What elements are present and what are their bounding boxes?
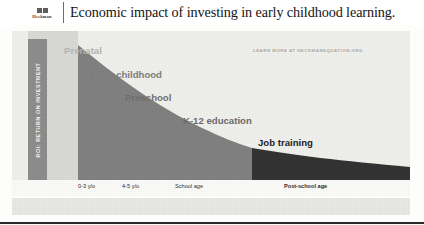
bottom-rule (0, 222, 424, 224)
axis-label-school-age: School age (175, 183, 203, 189)
curve-label-prenatal: Prenatal (64, 45, 102, 56)
chart-plot-area: Prenatal Early childhood Preschool K-12 … (12, 31, 410, 180)
footer-band (12, 198, 410, 215)
chart-axis-strip: 0-3 y/o 4-5 y/o School age Post-school a… (12, 180, 410, 196)
curve-label-preschool: Preschool (125, 92, 171, 103)
curve-label-k12-education: K-12 education (183, 115, 252, 126)
four-squares-logo-icon (37, 8, 48, 13)
page-title: Economic impact of investing in early ch… (70, 3, 418, 22)
logo-wordmark: Heckman (32, 14, 51, 19)
axis-label-age-0-3: 0-3 y/o (78, 183, 95, 189)
axis-label-age-4-5: 4-5 y/o (122, 183, 139, 189)
heckman-logo[interactable]: Heckman (24, 3, 60, 23)
roi-axis-bar: ROI: RETURN ON INVESTMENT (28, 39, 47, 180)
header-divider (63, 2, 64, 23)
roi-axis-label: ROI: RETURN ON INVESTMENT (35, 62, 41, 157)
page-header: Heckman Economic impact of investing in … (0, 0, 424, 26)
curve-label-early-childhood: Early childhood (90, 69, 162, 80)
learn-more-text[interactable]: LEARN MORE AT HECKMANEQUATION.ORG (253, 48, 363, 53)
axis-label-post-school-age: Post-school age (284, 183, 327, 189)
curve-label-job-training: Job training (258, 137, 313, 148)
chart-panel: Prenatal Early childhood Preschool K-12 … (12, 31, 410, 196)
screenshot-root: Heckman Economic impact of investing in … (0, 0, 424, 225)
